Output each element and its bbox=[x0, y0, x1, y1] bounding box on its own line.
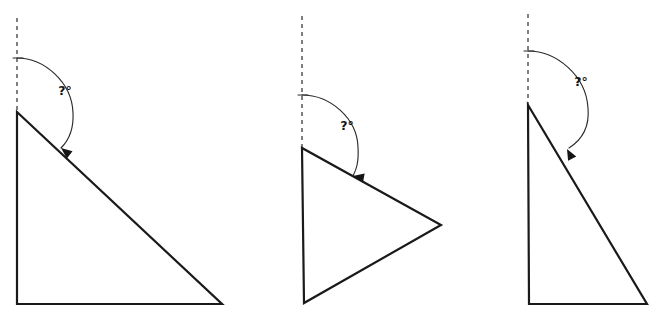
angle-label-3: ?° bbox=[574, 74, 588, 89]
angle-arc-1 bbox=[17, 58, 73, 148]
angle-label-2: ?° bbox=[340, 118, 354, 133]
figure-2-group: ?° bbox=[298, 16, 441, 303]
angle-arc-3 bbox=[528, 51, 588, 148]
diagram-canvas: ?° ?° ?° bbox=[0, 0, 658, 314]
angle-arrow-head-3 bbox=[563, 147, 576, 161]
triangle-shape-1 bbox=[17, 112, 222, 304]
figure-1-group: ?° bbox=[13, 18, 222, 304]
geometry-svg: ?° ?° ?° bbox=[0, 0, 658, 314]
triangle-shape-3 bbox=[528, 105, 647, 304]
triangle-shape-2 bbox=[302, 148, 441, 303]
figure-3-group: ?° bbox=[524, 14, 647, 304]
angle-label-1: ?° bbox=[58, 83, 72, 98]
